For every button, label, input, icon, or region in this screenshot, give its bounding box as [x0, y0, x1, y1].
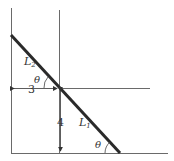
angle-arc-upper	[44, 77, 48, 88]
label-L2: L2	[23, 55, 36, 69]
diagram-canvas: L2 θ 3 4 L1 θ	[0, 0, 174, 161]
label-theta-lower: θ	[95, 139, 101, 150]
label-4: 4	[57, 116, 64, 129]
geometry-diagram: L2 θ 3 4 L1 θ	[0, 0, 174, 161]
angle-arc-lower	[105, 142, 110, 153]
label-3: 3	[28, 83, 35, 96]
